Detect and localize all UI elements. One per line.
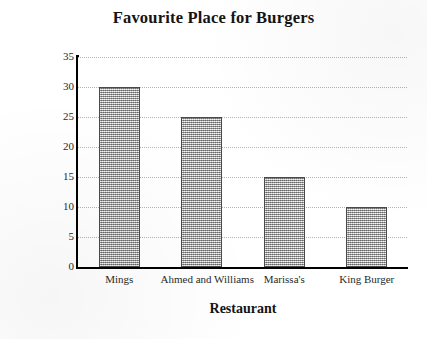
bar-chart-figure: Favourite Place for Burgers Number of st… <box>0 0 427 339</box>
x-tick-label: Mings <box>78 273 161 285</box>
y-tick-label: 30 <box>52 80 74 92</box>
x-tick-label: Ahmed and Williams <box>161 273 244 285</box>
bar <box>181 117 222 267</box>
gridline <box>78 57 408 58</box>
y-tick-label: 5 <box>52 230 74 242</box>
x-tick-label: Marissa's <box>243 273 326 285</box>
chart-title: Favourite Place for Burgers <box>0 8 427 28</box>
y-tick-label: 0 <box>52 260 74 272</box>
bar <box>346 207 387 267</box>
x-tick-label: King Burger <box>326 273 409 285</box>
bar <box>264 177 305 267</box>
bar <box>99 87 140 267</box>
x-axis-title: Restaurant <box>78 301 408 317</box>
y-tick-label: 10 <box>52 200 74 212</box>
y-tick-label: 35 <box>52 50 74 62</box>
plot-area <box>78 57 408 267</box>
y-tick-label: 25 <box>52 110 74 122</box>
y-tick-label: 15 <box>52 170 74 182</box>
y-tick-label: 20 <box>52 140 74 152</box>
